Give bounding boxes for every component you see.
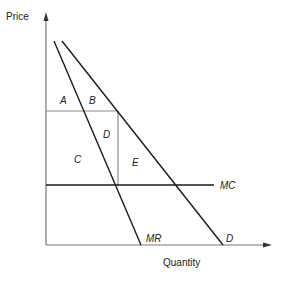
region-c-label: C	[74, 154, 82, 165]
monopoly-diagram: Price Quantity A B C D E MC MR D	[0, 0, 282, 282]
region-b-label: B	[89, 95, 96, 106]
demand-curve	[62, 41, 223, 245]
x-axis-arrow-icon	[263, 243, 272, 248]
mc-label: MC	[220, 180, 236, 191]
mr-curve	[54, 41, 141, 245]
demand-label: D	[226, 233, 233, 244]
region-a-label: A	[59, 95, 67, 106]
mr-label: MR	[146, 233, 162, 244]
region-d-label: D	[103, 129, 110, 140]
x-axis-label: Quantity	[163, 257, 200, 268]
y-axis-label: Price	[6, 11, 29, 22]
y-axis-arrow-icon	[44, 12, 49, 21]
region-e-label: E	[132, 157, 139, 168]
